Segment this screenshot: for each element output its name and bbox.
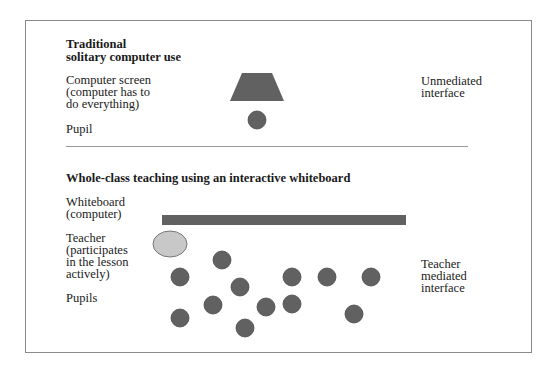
- diagram-shapes: [0, 0, 558, 370]
- teacher-icon: [153, 231, 187, 257]
- pupils-group: [171, 251, 380, 337]
- pupil-icon: [345, 305, 363, 323]
- pupil-icon: [204, 296, 222, 314]
- pupil-icon: [171, 268, 189, 286]
- pupil-icon: [231, 278, 249, 296]
- pupil-icon: [257, 298, 275, 316]
- pupil-icon: [248, 111, 266, 129]
- pupil-icon: [318, 268, 336, 286]
- pupil-icon: [283, 268, 301, 286]
- pupil-icon: [236, 319, 254, 337]
- computer-screen-icon: [230, 73, 284, 101]
- pupil-icon: [362, 268, 380, 286]
- pupil-icon: [213, 251, 231, 269]
- whiteboard-icon: [162, 215, 406, 225]
- pupil-icon: [171, 309, 189, 327]
- pupil-icon: [283, 295, 301, 313]
